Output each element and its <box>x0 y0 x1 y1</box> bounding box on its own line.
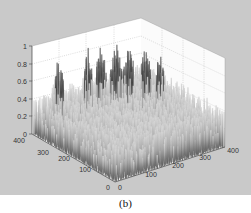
z-tick-0.2: 0.2 <box>17 113 27 120</box>
right-axis-tick-200: 200 <box>172 162 184 169</box>
left-axis-tick-400: 400 <box>13 137 25 144</box>
left-axis-tick-100: 100 <box>79 166 91 173</box>
z-tick-0.6: 0.6 <box>17 78 27 85</box>
z-tick-marks <box>29 46 32 134</box>
z-tick-1: 1 <box>23 43 27 50</box>
figure-background: 1 0.8 0.6 0.4 0.2 0 400 300 200 100 0 0 … <box>0 0 251 195</box>
left-axis-tick-0: 0 <box>106 184 110 191</box>
left-axis-tick-200: 200 <box>58 155 70 162</box>
surface-plot: 1 0.8 0.6 0.4 0.2 0 400 300 200 100 0 0 … <box>0 0 251 195</box>
left-axis-tick-300: 300 <box>37 149 49 156</box>
right-axis-tick-300: 300 <box>199 154 211 161</box>
z-tick-0.4: 0.4 <box>17 96 27 103</box>
right-axis-tick-0: 0 <box>118 184 122 191</box>
right-axis-tick-100: 100 <box>145 171 157 178</box>
z-tick-0.8: 0.8 <box>17 61 27 68</box>
right-axis-tick-400: 400 <box>227 147 239 154</box>
figure-caption: (b) <box>0 197 251 209</box>
